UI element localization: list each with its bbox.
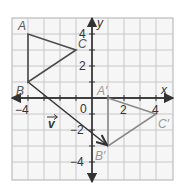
origin-label: 0 (80, 102, 87, 116)
point-a-prime-label: A′ (96, 84, 108, 98)
x-tick-4: 4 (152, 103, 159, 117)
point-b-prime-label: B′ (95, 149, 106, 163)
y-tick-neg4: −4 (70, 155, 84, 169)
x-tick-neg4: −4 (15, 103, 29, 117)
y-tick-neg2: −2 (70, 123, 84, 137)
y-axis-label: y (96, 16, 104, 30)
coordinate-plane: x y 0 −4 2 4 4 2 −2 −4 A B C A′ B′ C′ v (0, 0, 181, 188)
y-tick-2: 2 (79, 59, 86, 73)
point-c-prime-label: C′ (158, 117, 170, 131)
x-tick-2: 2 (120, 103, 127, 117)
x-axis-label: x (160, 83, 168, 97)
point-b-label: B (16, 84, 24, 98)
point-c-label: C (78, 37, 87, 51)
point-a-label: A (17, 19, 26, 33)
